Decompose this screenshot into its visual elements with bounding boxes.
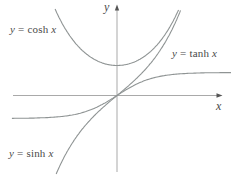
- sinh-label-fn: sinh: [26, 147, 48, 159]
- tanh-curve-label: y = tanh x: [172, 47, 217, 59]
- tanh-label-eq: =: [177, 47, 189, 59]
- sinh-label-arg: x: [49, 147, 54, 159]
- tanh-label-fn: tanh: [189, 47, 212, 59]
- tanh-label-arg: x: [212, 47, 217, 59]
- x-axis-arrow-icon: [217, 93, 223, 97]
- cosh-label-fn: cosh: [27, 23, 51, 35]
- x-axis-label: x: [216, 99, 221, 114]
- y-axis-arrow-icon: [115, 5, 119, 11]
- y-axis-label: y: [104, 0, 109, 15]
- sinh-curve: [56, 10, 180, 174]
- sinh-label-eq: =: [14, 147, 26, 159]
- hyperbolic-functions-figure: y = cosh x y = tanh x y = sinh x y x: [0, 0, 231, 181]
- cosh-label-eq: =: [15, 23, 27, 35]
- cosh-curve-label: y = cosh x: [10, 23, 56, 35]
- cosh-label-arg: x: [51, 23, 56, 35]
- sinh-curve-label: y = sinh x: [9, 147, 54, 159]
